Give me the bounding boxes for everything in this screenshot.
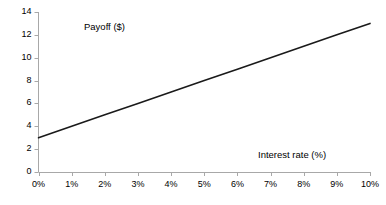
x-axis-caption: Interest rate (%) <box>258 150 326 160</box>
x-axis-tick-label: 10% <box>350 180 386 189</box>
data-series-group <box>39 23 371 137</box>
data-series-line <box>39 23 371 137</box>
payoff-line-chart: 02468101214 0%1%2%3%4%5%6%7%8%9%10% Payo… <box>0 0 386 205</box>
y-axis-tick-label: 14 <box>10 7 32 16</box>
x-axis-group <box>39 172 371 176</box>
y-axis-tick-label: 10 <box>10 53 32 62</box>
y-axis-tick-label: 8 <box>10 76 32 85</box>
y-axis-tick-label: 6 <box>10 98 32 107</box>
y-axis-tick-label: 2 <box>10 144 32 153</box>
y-axis-group <box>35 12 39 173</box>
y-axis-caption: Payoff ($) <box>84 22 125 32</box>
y-axis-tick-label: 4 <box>10 121 32 130</box>
y-axis-ticks <box>35 13 39 173</box>
y-axis-tick-label: 0 <box>10 167 32 176</box>
chart-plot-area <box>0 0 386 205</box>
y-axis-tick-label: 12 <box>10 30 32 39</box>
